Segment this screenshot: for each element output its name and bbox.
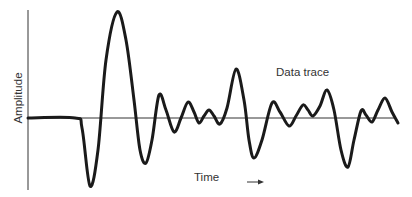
x-axis-label: Time	[194, 171, 219, 183]
trace-annotation: Data trace	[276, 66, 329, 78]
data-trace-line	[28, 12, 398, 187]
chart-plot-area	[0, 0, 412, 197]
time-arrow-icon	[258, 180, 264, 185]
y-axis-label: Amplitude	[12, 68, 24, 128]
